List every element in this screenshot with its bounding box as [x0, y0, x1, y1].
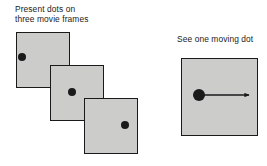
movie-frame-3: [84, 98, 138, 154]
right-panel-caption: See one moving dot: [177, 34, 253, 44]
figure-canvas: Present dots on three movie frames See o…: [0, 0, 267, 166]
left-panel-caption: Present dots on three movie frames: [15, 4, 88, 24]
